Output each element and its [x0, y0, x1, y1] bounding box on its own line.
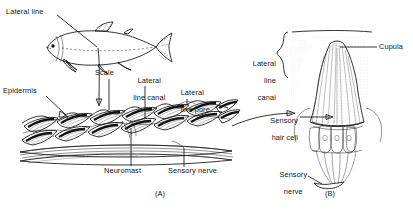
leader-epidermis	[46, 96, 66, 115]
label-lateral-line-pore: Lateral line pore	[172, 80, 216, 123]
label-lateral-line-canal: Lateral line canal	[124, 68, 166, 111]
dermis-nerve-band	[20, 145, 233, 165]
label-sensory-nerve-a: Sensory nerve	[168, 167, 217, 176]
sensory-hair-cells	[309, 126, 362, 153]
figure-canvas: Lateral line Scale Lateral line canal La…	[0, 0, 413, 210]
leader-sensory-nerve-b	[308, 176, 322, 184]
label-lateral-line-canal-b: Lateral line canal	[232, 51, 276, 111]
label-sensory-hair-cell: Sensory hair cell	[252, 108, 298, 151]
fish-illustration	[46, 22, 172, 74]
label-sensory-nerve-b: Sensory nerve	[268, 162, 310, 205]
label-scale: Scale	[95, 69, 114, 78]
caption-panel-a: (A)	[155, 190, 165, 199]
label-neuromast: Neuromast	[104, 167, 141, 176]
caption-panel-b: (B)	[325, 190, 335, 199]
label-lateral-line: Lateral line	[6, 8, 43, 17]
label-epidermis: Epidermis	[3, 87, 37, 96]
label-cupula: Cupula	[379, 43, 403, 52]
brace-lateral-line-canal	[277, 32, 288, 78]
